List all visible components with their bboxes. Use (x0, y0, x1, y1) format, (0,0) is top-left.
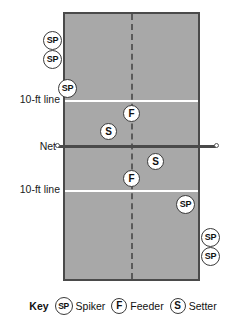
legend-entry-feeder: F Feeder (111, 298, 163, 314)
marker-spiker-right-2: SP (201, 228, 220, 247)
legend-label-spiker: Spiker (76, 300, 106, 312)
spiker-symbol-icon: SP (55, 297, 73, 315)
label-ten-ft-line-bottom: 10-ft line (20, 184, 60, 195)
marker-spiker-left-1: SP (43, 31, 62, 50)
feeder-symbol-icon: F (111, 298, 127, 314)
net-post-right-icon (214, 143, 219, 148)
marker-spiker-left-3: SP (58, 79, 77, 98)
marker-setter-bottom: S (147, 153, 164, 170)
marker-feeder-top: F (123, 105, 140, 122)
marker-spiker-left-2: SP (43, 50, 62, 69)
legend-key: Key SP Spiker F Feeder S Setter (0, 297, 249, 315)
net-line (58, 145, 216, 148)
marker-spiker-right-3: SP (201, 247, 220, 266)
legend-entry-spiker: SP Spiker (55, 297, 106, 315)
label-ten-ft-line-top: 10-ft line (20, 94, 60, 105)
legend-title: Key (29, 300, 48, 312)
marker-spiker-right-1: SP (176, 195, 195, 214)
legend-entry-setter: S Setter (170, 298, 217, 314)
legend-label-setter: Setter (189, 300, 217, 312)
volleyball-court-diagram: 10-ft line Net 10-ft line SP SP SP F S S… (0, 0, 249, 325)
marker-feeder-bottom: F (123, 170, 140, 187)
label-net: Net (40, 141, 56, 152)
legend-label-feeder: Feeder (130, 300, 163, 312)
setter-symbol-icon: S (170, 298, 186, 314)
marker-setter-top: S (100, 123, 117, 140)
